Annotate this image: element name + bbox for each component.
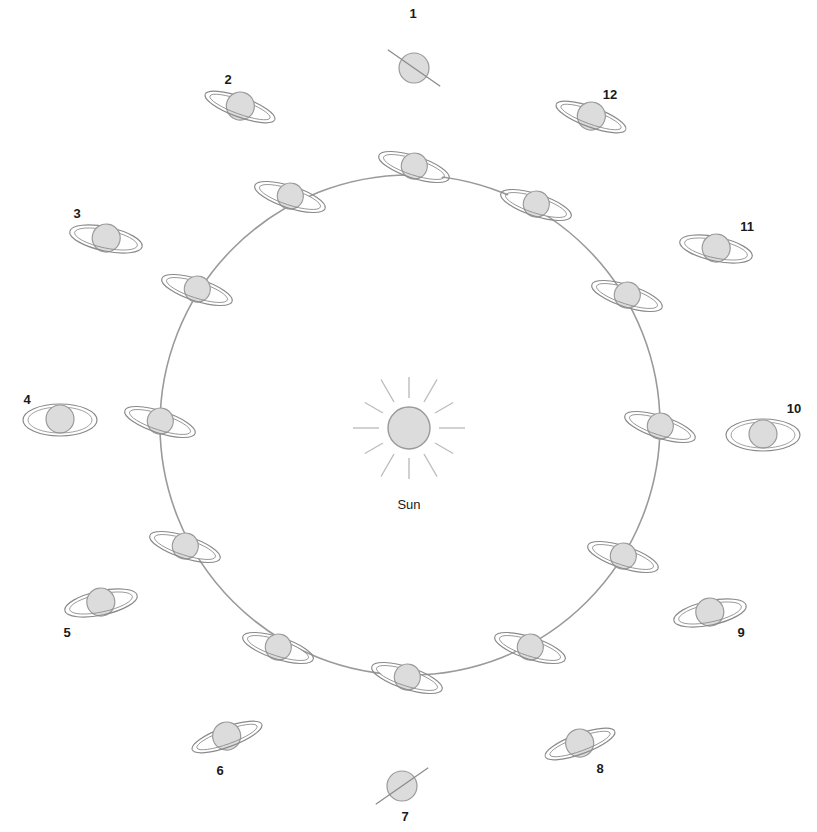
position-label-5: 5 bbox=[63, 625, 70, 640]
saturn-view-10 bbox=[726, 419, 800, 451]
inner-planet-2 bbox=[497, 180, 575, 228]
position-label-1: 1 bbox=[409, 6, 416, 21]
position-label-6: 6 bbox=[216, 763, 223, 778]
position-label-7: 7 bbox=[401, 809, 408, 824]
position-label-8: 8 bbox=[596, 761, 603, 776]
sun-ray bbox=[381, 380, 394, 403]
saturn-view-1 bbox=[388, 50, 440, 87]
planet-body bbox=[46, 405, 74, 433]
sun-ray bbox=[424, 380, 437, 403]
saturn-view-3 bbox=[67, 217, 145, 260]
inner-planet-9 bbox=[146, 522, 224, 570]
sun bbox=[353, 377, 465, 479]
sun-ray bbox=[365, 443, 383, 454]
sun-ray bbox=[365, 403, 383, 414]
saturn-view-7 bbox=[376, 768, 428, 805]
inner-planet-6 bbox=[491, 623, 569, 671]
position-label-4: 4 bbox=[23, 392, 31, 407]
saturn-view-6 bbox=[187, 710, 266, 762]
inner-planet-11 bbox=[158, 265, 236, 313]
saturn-view-8 bbox=[540, 717, 619, 769]
inner-planet-8 bbox=[239, 623, 317, 671]
saturn-view-4 bbox=[23, 404, 97, 436]
inner-planet-1 bbox=[375, 142, 453, 190]
inner-planet-12 bbox=[251, 172, 329, 220]
inner-planet-7 bbox=[368, 653, 446, 701]
planet-body bbox=[749, 420, 777, 448]
position-label-3: 3 bbox=[73, 206, 80, 221]
saturn-orbit-diagram: 123456789101112 Sun bbox=[0, 0, 817, 832]
position-label-10: 10 bbox=[787, 401, 801, 416]
position-label-2: 2 bbox=[224, 72, 231, 87]
saturn-view-5 bbox=[62, 581, 140, 624]
saturn-view-12 bbox=[552, 90, 631, 142]
sun-ray bbox=[381, 454, 394, 477]
sun-ray bbox=[424, 454, 437, 477]
position-label-9: 9 bbox=[737, 625, 744, 640]
position-label-12: 12 bbox=[603, 87, 617, 102]
sun-ray bbox=[435, 443, 453, 454]
sun-ray bbox=[435, 403, 453, 414]
position-label-11: 11 bbox=[740, 219, 754, 234]
inner-planet-3 bbox=[588, 271, 666, 319]
saturn-view-2 bbox=[201, 80, 280, 132]
sun-disc bbox=[388, 407, 430, 449]
inner-planet-5 bbox=[584, 532, 662, 580]
sun-label: Sun bbox=[397, 497, 420, 512]
